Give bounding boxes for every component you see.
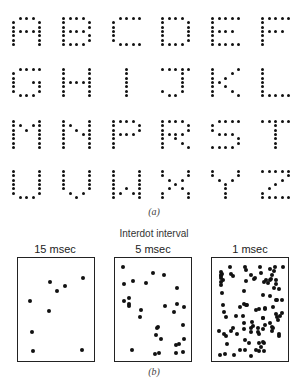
random-dot	[131, 279, 135, 283]
random-dot	[182, 305, 186, 309]
caption-b: (b)	[0, 366, 308, 377]
random-dot	[30, 330, 34, 334]
letter-w	[112, 170, 142, 200]
letter-x	[161, 170, 191, 200]
random-dot	[273, 265, 277, 269]
random-dot	[221, 303, 225, 307]
random-dot	[177, 342, 181, 346]
random-dot	[155, 326, 159, 330]
random-dot	[162, 273, 166, 277]
random-dot	[268, 278, 272, 282]
random-dot	[127, 296, 131, 300]
letter-v	[62, 170, 92, 200]
letter-r	[161, 120, 191, 150]
random-dot	[181, 323, 185, 327]
random-dot	[235, 332, 239, 336]
random-dot	[154, 333, 158, 337]
random-dot	[242, 289, 246, 293]
letter-e	[211, 17, 241, 47]
random-dot	[175, 286, 179, 290]
random-dot	[280, 298, 284, 302]
random-dot	[232, 353, 236, 357]
random-dot	[277, 332, 281, 336]
random-dot	[121, 265, 125, 269]
random-dot	[268, 321, 272, 325]
random-dot	[272, 286, 276, 290]
random-dot	[225, 342, 229, 346]
letter-s	[211, 120, 241, 150]
random-dot	[261, 327, 265, 331]
random-dot	[222, 310, 226, 314]
random-dot	[271, 305, 275, 309]
random-dot	[241, 314, 245, 318]
random-dot	[249, 330, 253, 334]
random-dot	[217, 329, 221, 333]
random-dot	[238, 305, 242, 309]
letter-j	[161, 68, 191, 98]
random-dot	[242, 321, 246, 325]
dot-panel-5msec	[114, 257, 192, 362]
random-dot	[268, 294, 272, 298]
random-dot	[48, 280, 52, 284]
random-dot	[219, 283, 223, 287]
random-dot	[274, 278, 278, 282]
random-dot	[172, 310, 176, 314]
random-dot	[174, 351, 178, 355]
random-dot	[175, 302, 179, 306]
random-dot	[243, 348, 247, 352]
random-dot	[256, 326, 260, 330]
random-dot	[159, 337, 163, 341]
random-dot	[47, 309, 51, 313]
letter-a	[12, 17, 42, 47]
random-dot	[258, 265, 262, 269]
letter-l	[261, 68, 291, 98]
random-dot	[63, 284, 67, 288]
random-dot	[55, 289, 59, 293]
random-dot	[263, 323, 267, 327]
random-dot	[31, 349, 35, 353]
random-dot	[280, 311, 284, 315]
random-dot	[122, 282, 126, 286]
random-dot	[229, 272, 233, 276]
random-dot	[275, 298, 279, 302]
random-dot	[257, 349, 261, 353]
random-dot	[153, 352, 157, 356]
random-dot	[270, 329, 274, 333]
random-dot	[251, 324, 255, 328]
letter-y	[211, 170, 241, 200]
panel-label-5msec: 5 msec	[113, 243, 193, 255]
random-dot	[249, 354, 253, 358]
random-dot	[238, 348, 242, 352]
letter-i	[112, 68, 142, 98]
letter-f	[261, 17, 291, 47]
letter-t	[261, 120, 291, 150]
random-dot	[274, 282, 278, 286]
letter-m	[12, 120, 42, 150]
interdot-interval-heading: Interdot interval	[0, 228, 308, 239]
random-dot	[259, 345, 263, 349]
letter-z	[261, 170, 291, 200]
random-dot	[122, 299, 126, 303]
random-dot	[261, 293, 265, 297]
random-dot	[247, 341, 251, 345]
random-dot	[277, 287, 281, 291]
random-dot	[263, 306, 267, 310]
letter-c	[112, 17, 142, 47]
letter-d	[161, 17, 191, 47]
random-dot	[244, 279, 248, 283]
random-dot	[81, 276, 85, 280]
random-dot	[281, 265, 285, 269]
panel-label-1msec: 1 msec	[210, 243, 290, 255]
random-dot	[275, 315, 279, 319]
letter-k	[211, 68, 241, 98]
random-dot	[157, 351, 161, 355]
random-dot	[231, 326, 235, 330]
letter-h	[62, 68, 92, 98]
letter-n	[62, 120, 92, 150]
random-dot	[218, 353, 222, 357]
random-dot	[228, 265, 232, 269]
random-dot	[271, 326, 275, 330]
random-dot	[138, 315, 142, 319]
random-dot	[127, 304, 131, 308]
random-dot	[223, 352, 227, 356]
